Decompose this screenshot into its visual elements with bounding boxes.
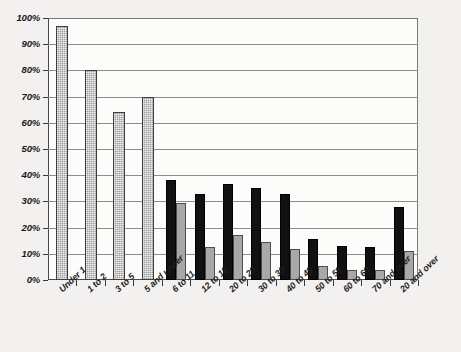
bar-group xyxy=(162,18,190,280)
bar-group xyxy=(333,18,361,280)
y-axis-tick-label: 70% xyxy=(0,91,40,102)
y-axis-tick-label: 60% xyxy=(0,117,40,128)
y-axis-tick-label: 90% xyxy=(0,38,40,49)
bar-group xyxy=(105,18,133,280)
y-axis-tick-label: 80% xyxy=(0,64,40,75)
bar-group xyxy=(133,18,161,280)
y-axis-tick-label: 50% xyxy=(0,143,40,154)
y-axis-tick xyxy=(43,280,48,281)
y-axis-tick-label: 30% xyxy=(0,195,40,206)
bar-group xyxy=(190,18,218,280)
bar-group xyxy=(48,18,76,280)
y-axis-tick-label: 10% xyxy=(0,248,40,259)
bar-group xyxy=(304,18,332,280)
bar-series-2 xyxy=(85,70,97,280)
y-axis-tick-label: 100% xyxy=(0,12,40,23)
y-axis-tick-label: 0% xyxy=(0,274,40,285)
y-axis-tick-label: 40% xyxy=(0,169,40,180)
bar-series-2 xyxy=(176,203,186,280)
bars-layer xyxy=(48,18,418,280)
bar-group xyxy=(276,18,304,280)
bar-series-2 xyxy=(113,112,125,280)
bar-group xyxy=(219,18,247,280)
bar-chart: 100%90%80%70%60%50%40%30%20%10%0% Under … xyxy=(0,0,461,352)
bar-series-2 xyxy=(56,26,68,280)
bar-group xyxy=(76,18,104,280)
y-axis-tick-label: 20% xyxy=(0,222,40,233)
bar-series-2 xyxy=(142,97,154,280)
bar-group xyxy=(390,18,418,280)
bar-group xyxy=(361,18,389,280)
bar-series-1 xyxy=(195,194,205,280)
bar-group xyxy=(247,18,275,280)
